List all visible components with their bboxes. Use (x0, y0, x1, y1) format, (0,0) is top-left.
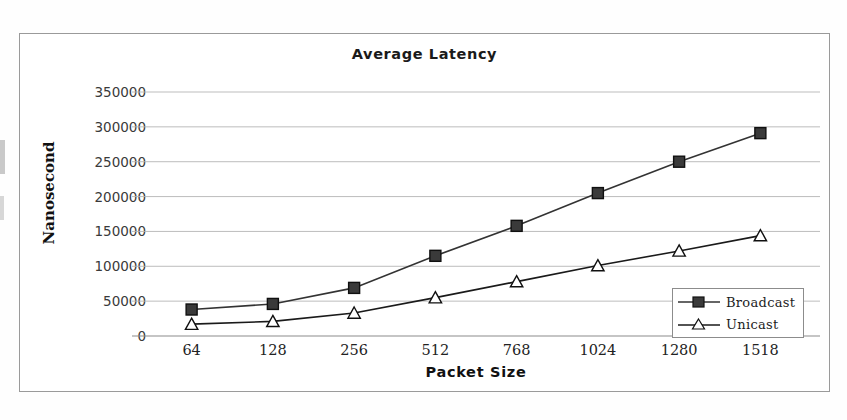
chart-legend: Broadcast Unicast (672, 288, 804, 338)
data-point-marker-broadcast[interactable] (755, 128, 766, 139)
data-point-marker-broadcast[interactable] (267, 298, 278, 309)
x-axis-tick-labels: 64128256512768102412801518 (151, 342, 801, 364)
legend-marker-open-triangle-icon (677, 317, 721, 331)
legend-item-broadcast[interactable]: Broadcast (677, 291, 795, 313)
scanned-page-background: Average Latency Nanosecond 0500001000001… (0, 0, 847, 420)
data-point-marker-broadcast[interactable] (592, 188, 603, 199)
x-axis-tick-label: 1024 (579, 342, 616, 358)
y-axis-tick-labels: 0500001000001500002000002500003000003500… (56, 92, 146, 336)
legend-marker-filled-square-icon (677, 295, 721, 309)
legend-item-unicast[interactable]: Unicast (677, 313, 779, 335)
scan-edge-artifact (0, 140, 5, 174)
legend-label-unicast: Unicast (726, 317, 779, 332)
scan-edge-artifact-secondary (0, 196, 4, 220)
data-point-marker-broadcast[interactable] (674, 156, 685, 167)
data-point-marker-broadcast[interactable] (430, 250, 441, 261)
data-point-marker-broadcast[interactable] (349, 282, 360, 293)
chart-frame: Average Latency Nanosecond 0500001000001… (19, 33, 830, 392)
x-axis-tick-label: 256 (340, 342, 368, 358)
data-point-marker-broadcast[interactable] (511, 220, 522, 231)
x-axis-tick-label: 128 (259, 342, 287, 358)
x-axis-tick-label: 64 (182, 342, 200, 358)
x-axis-title: Packet Size (151, 364, 801, 380)
x-axis-tick-label: 1518 (742, 342, 779, 358)
x-axis-tick-label: 768 (503, 342, 531, 358)
chart-title: Average Latency (20, 46, 829, 62)
x-axis-tick-label: 512 (422, 342, 450, 358)
data-point-marker-broadcast[interactable] (186, 304, 197, 315)
x-axis-tick-label: 1280 (661, 342, 698, 358)
legend-label-broadcast: Broadcast (726, 295, 795, 310)
